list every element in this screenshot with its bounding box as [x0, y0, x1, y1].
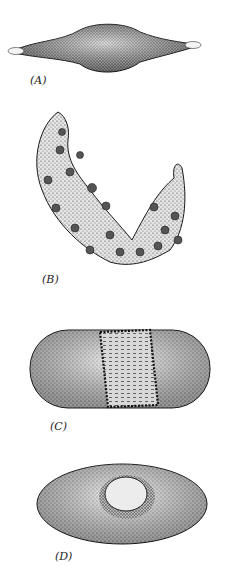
figure-c-capsule: [30, 330, 210, 408]
figure-label-a: (A): [30, 74, 47, 87]
tip-right: [185, 42, 201, 49]
figure-label-c: (C): [50, 420, 67, 433]
figure-b-v-lobed: [37, 112, 185, 264]
tip-left: [8, 48, 24, 55]
figure-label-d: (D): [55, 550, 72, 563]
figure-a-spindle: [8, 24, 201, 72]
figure-label-b: (B): [42, 273, 59, 286]
figure-d-oval: [37, 464, 207, 544]
